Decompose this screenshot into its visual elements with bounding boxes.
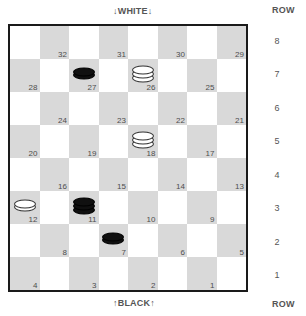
square-number-label: 16 xyxy=(58,182,67,191)
board-square-15[interactable]: 15 xyxy=(99,158,129,191)
board-square-29[interactable]: 29 xyxy=(217,26,247,59)
board-square-unplayable xyxy=(128,224,158,257)
board-square-32[interactable]: 32 xyxy=(40,26,70,59)
square-number-label: 25 xyxy=(206,83,215,92)
board-square-22[interactable]: 22 xyxy=(158,92,188,125)
board-square-18[interactable]: 18 xyxy=(128,125,158,158)
board-square-unplayable xyxy=(158,125,188,158)
piece-disc xyxy=(73,68,95,77)
square-number-label: 29 xyxy=(235,50,244,59)
board-square-unplayable xyxy=(128,158,158,191)
board-square-unplayable xyxy=(40,125,70,158)
board-square-17[interactable]: 17 xyxy=(187,125,217,158)
checkers-board[interactable]: 3231302928272625242322212019181716151413… xyxy=(8,24,248,292)
square-number-label: 10 xyxy=(147,215,156,224)
square-number-label: 8 xyxy=(63,248,67,257)
board-square-unplayable xyxy=(40,257,70,290)
square-number-label: 27 xyxy=(88,83,97,92)
board-square-unplayable xyxy=(158,59,188,92)
board-square-unplayable xyxy=(69,26,99,59)
board-square-13[interactable]: 13 xyxy=(217,158,247,191)
row-number-4: 4 xyxy=(262,158,292,192)
board-square-12[interactable]: 12 xyxy=(10,191,40,224)
board-square-6[interactable]: 6 xyxy=(158,224,188,257)
board-square-10[interactable]: 10 xyxy=(128,191,158,224)
white-king-piece[interactable] xyxy=(132,132,154,149)
piece-disc xyxy=(14,200,36,209)
checkers-board-figure: ↓WHITE↓ ROW 3231302928272625242322212019… xyxy=(0,0,306,316)
square-number-label: 26 xyxy=(147,83,156,92)
board-square-unplayable xyxy=(10,224,40,257)
board-square-27[interactable]: 27 xyxy=(69,59,99,92)
square-number-label: 11 xyxy=(88,215,96,224)
black-king-piece[interactable] xyxy=(73,198,95,215)
board-square-unplayable xyxy=(99,257,129,290)
piece-disc xyxy=(102,233,124,242)
row-number-8: 8 xyxy=(262,24,292,58)
square-number-label: 22 xyxy=(176,116,185,125)
square-number-label: 30 xyxy=(176,50,185,59)
board-square-24[interactable]: 24 xyxy=(40,92,70,125)
square-number-label: 13 xyxy=(235,182,244,191)
board-square-23[interactable]: 23 xyxy=(99,92,129,125)
row-header-bottom-label: ROW xyxy=(272,299,295,309)
row-number-2: 2 xyxy=(262,225,292,259)
square-number-label: 3 xyxy=(92,281,96,290)
board-square-11[interactable]: 11 xyxy=(69,191,99,224)
board-square-21[interactable]: 21 xyxy=(217,92,247,125)
square-number-label: 9 xyxy=(210,215,214,224)
board-square-26[interactable]: 26 xyxy=(128,59,158,92)
white-side-label: ↓WHITE↓ xyxy=(113,6,152,16)
square-number-label: 21 xyxy=(235,116,244,125)
board-square-unplayable xyxy=(158,257,188,290)
board-square-5[interactable]: 5 xyxy=(217,224,247,257)
square-number-label: 4 xyxy=(33,281,37,290)
board-square-unplayable xyxy=(40,191,70,224)
board-square-unplayable xyxy=(69,158,99,191)
row-number-5: 5 xyxy=(262,125,292,159)
black-side-label: ↑BLACK↑ xyxy=(113,298,155,308)
black-man-piece[interactable] xyxy=(73,68,95,81)
board-square-unplayable xyxy=(10,92,40,125)
row-header-top-label: ROW xyxy=(272,5,295,15)
white-king-piece[interactable] xyxy=(132,66,154,83)
piece-disc xyxy=(132,66,154,75)
board-square-unplayable xyxy=(187,92,217,125)
board-square-9[interactable]: 9 xyxy=(187,191,217,224)
square-number-label: 6 xyxy=(181,248,185,257)
board-square-16[interactable]: 16 xyxy=(40,158,70,191)
square-number-label: 14 xyxy=(176,182,185,191)
board-square-unplayable xyxy=(128,26,158,59)
board-square-unplayable xyxy=(158,191,188,224)
board-square-31[interactable]: 31 xyxy=(99,26,129,59)
row-number-1: 1 xyxy=(262,259,292,293)
board-square-20[interactable]: 20 xyxy=(10,125,40,158)
board-square-19[interactable]: 19 xyxy=(69,125,99,158)
board-square-2[interactable]: 2 xyxy=(128,257,158,290)
board-square-8[interactable]: 8 xyxy=(40,224,70,257)
square-number-label: 32 xyxy=(58,50,67,59)
board-square-unplayable xyxy=(10,26,40,59)
board-square-25[interactable]: 25 xyxy=(187,59,217,92)
square-number-label: 7 xyxy=(122,248,126,257)
board-square-4[interactable]: 4 xyxy=(10,257,40,290)
square-number-label: 12 xyxy=(29,215,38,224)
row-number-6: 6 xyxy=(262,91,292,125)
board-square-3[interactable]: 3 xyxy=(69,257,99,290)
board-square-unplayable xyxy=(99,125,129,158)
board-square-7[interactable]: 7 xyxy=(99,224,129,257)
square-number-label: 31 xyxy=(117,50,126,59)
square-number-label: 17 xyxy=(206,149,215,158)
board-square-unplayable xyxy=(10,158,40,191)
square-number-label: 1 xyxy=(210,281,214,290)
black-man-piece[interactable] xyxy=(102,233,124,246)
board-square-unplayable xyxy=(217,191,247,224)
board-square-28[interactable]: 28 xyxy=(10,59,40,92)
row-number-axis: 87654321 xyxy=(262,24,292,292)
board-square-30[interactable]: 30 xyxy=(158,26,188,59)
row-number-7: 7 xyxy=(262,58,292,92)
board-square-1[interactable]: 1 xyxy=(187,257,217,290)
board-grid: 3231302928272625242322212019181716151413… xyxy=(10,26,246,290)
board-square-14[interactable]: 14 xyxy=(158,158,188,191)
white-man-piece[interactable] xyxy=(14,200,36,213)
